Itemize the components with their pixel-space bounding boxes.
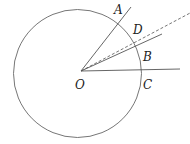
circle: [14, 10, 142, 138]
label-D: D: [132, 23, 143, 37]
label-A: A: [113, 3, 123, 17]
ray-OD-dashed: [81, 12, 190, 71]
ray-OC: [81, 69, 180, 71]
label-C: C: [143, 78, 152, 92]
label-B: B: [142, 50, 152, 64]
label-O: O: [75, 78, 85, 92]
geometry-diagram: A D B O C: [0, 0, 190, 144]
